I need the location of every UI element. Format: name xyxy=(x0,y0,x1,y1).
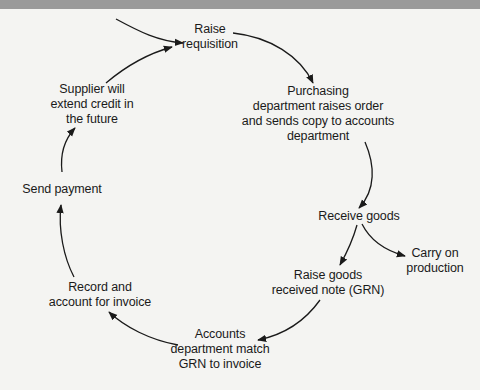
arrow-payment-to-supplier xyxy=(62,128,75,172)
node-text-line: Supplier will xyxy=(50,82,133,97)
arrow-entry-to-requisition xyxy=(116,19,183,43)
node-text-line: department xyxy=(242,129,394,144)
node-purchasing-raises-order: Purchasing department raises order and s… xyxy=(242,84,394,144)
arrow-purchasing-to-receive xyxy=(359,142,372,208)
node-supplier-extend-credit: Supplier will extend credit in the futur… xyxy=(50,82,133,127)
node-text-line: Accounts xyxy=(170,327,269,342)
node-text-line: Raise goods xyxy=(272,268,385,283)
arrow-record-to-payment xyxy=(60,205,74,277)
node-text-line: Send payment xyxy=(22,182,101,197)
node-text-line: Raise xyxy=(182,22,238,37)
arrow-receive-to-production xyxy=(362,224,405,256)
node-text-line: Record and xyxy=(49,280,151,295)
node-text-line: GRN to invoice xyxy=(170,357,269,372)
arrow-requisition-to-purchasing xyxy=(233,33,313,83)
node-text-line: and sends copy to accounts xyxy=(242,114,394,129)
node-text-line: requisition xyxy=(182,37,238,52)
node-text-line: the future xyxy=(50,112,133,127)
node-text-line: extend credit in xyxy=(50,97,133,112)
node-send-payment: Send payment xyxy=(22,182,101,197)
node-text-line: department match xyxy=(170,342,269,357)
node-raise-grn: Raise goods received note (GRN) xyxy=(272,268,385,298)
node-text-line: received note (GRN) xyxy=(272,283,385,298)
node-receive-goods: Receive goods xyxy=(318,209,399,224)
node-text-line: Purchasing xyxy=(242,84,394,99)
node-text-line: Carry on xyxy=(406,246,463,261)
arrow-accounts-to-record xyxy=(109,312,178,345)
node-accounts-match-grn: Accounts department match GRN to invoice xyxy=(170,327,269,372)
node-text-line: account for invoice xyxy=(49,295,151,310)
node-text-line: production xyxy=(406,261,463,276)
node-record-invoice: Record and account for invoice xyxy=(49,280,151,310)
arrow-supplier-to-requisition xyxy=(106,47,172,83)
node-carry-on-production: Carry on production xyxy=(406,246,463,276)
node-text-line: Receive goods xyxy=(318,209,399,224)
arrow-receive-to-grn xyxy=(340,225,357,265)
node-text-line: department raises order xyxy=(242,99,394,114)
node-raise-requisition: Raise requisition xyxy=(182,22,238,52)
